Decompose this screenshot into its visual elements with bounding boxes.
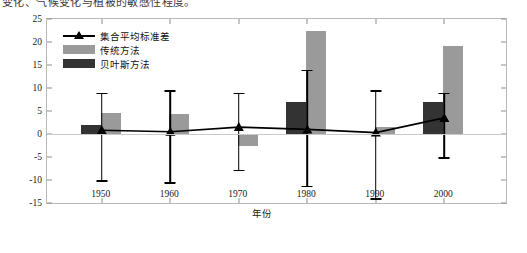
error-bar-cap xyxy=(302,186,313,188)
swatch-dark-gray-icon xyxy=(63,59,95,68)
x-tick-label: 1960 xyxy=(160,189,179,199)
y-tick-mark xyxy=(47,65,52,66)
y-tick-mark xyxy=(47,180,52,181)
y-tick-label: -15 xyxy=(29,198,42,208)
error-bar-cap xyxy=(439,93,450,95)
y-tick-mark xyxy=(501,111,506,112)
x-tick-mark xyxy=(101,19,102,24)
error-bar-cap xyxy=(439,157,450,159)
bar-traditional xyxy=(101,113,121,134)
chart-figure: 格陆地NEP (TgC/a) 年份 2520151050-5-10-15 集合平… xyxy=(0,0,527,253)
y-tick-mark xyxy=(47,157,52,158)
y-tick-mark xyxy=(501,203,506,204)
error-bar-whisker xyxy=(238,93,240,170)
legend-label: 传统方法 xyxy=(100,43,140,57)
error-bar-whisker xyxy=(375,90,377,198)
error-bar-cap xyxy=(370,90,381,92)
bar-traditional xyxy=(443,46,463,134)
bar-bayesian xyxy=(286,102,306,134)
bar-traditional xyxy=(238,134,258,146)
y-tick-mark xyxy=(501,88,506,89)
y-tick-mark xyxy=(501,65,506,66)
y-tick-mark xyxy=(47,42,52,43)
x-tick-label: 1950 xyxy=(91,189,110,199)
x-tick-mark xyxy=(375,19,376,24)
y-tick-mark xyxy=(47,19,52,20)
y-tick-label: -10 xyxy=(29,175,42,185)
error-bar-whisker xyxy=(170,90,172,182)
x-tick-mark xyxy=(444,19,445,24)
y-tick-label: 5 xyxy=(37,106,42,116)
legend-item-bayesian: 贝叶斯方法 xyxy=(63,57,170,70)
y-tick-label: 15 xyxy=(33,60,43,70)
error-bar-whisker xyxy=(101,93,103,180)
line-triangle-icon xyxy=(63,29,95,42)
x-tick-label: 1990 xyxy=(365,189,384,199)
error-bar-cap xyxy=(96,180,107,182)
error-bar-cap xyxy=(165,90,176,92)
bar-bayesian xyxy=(423,102,443,134)
y-tick-mark xyxy=(47,88,52,89)
x-tick-mark xyxy=(170,19,171,24)
y-tick-mark xyxy=(501,42,506,43)
x-tick-label: 1980 xyxy=(297,189,316,199)
x-tick-mark xyxy=(238,19,239,24)
bar-traditional xyxy=(306,31,326,135)
y-tick-mark xyxy=(501,19,506,20)
x-axis-title: 年份 xyxy=(252,206,272,220)
y-tick-label: 25 xyxy=(33,14,43,24)
error-bar-cap xyxy=(165,182,176,184)
x-tick-label: 2000 xyxy=(434,189,453,199)
y-tick-mark xyxy=(47,203,52,204)
bar-bayesian xyxy=(81,125,101,134)
error-bar-whisker xyxy=(444,93,446,157)
legend-label: 贝叶斯方法 xyxy=(100,57,150,71)
error-bar-cap xyxy=(233,93,244,95)
y-tick-mark xyxy=(47,111,52,112)
zero-baseline xyxy=(47,134,506,135)
y-tick-label: 0 xyxy=(37,129,42,139)
y-tick-label: -5 xyxy=(34,152,42,162)
y-tick-mark xyxy=(501,157,506,158)
swatch-light-gray-icon xyxy=(63,45,95,54)
plot-area: 2520151050-5-10-15 集合平均标准差 传统方法 贝叶斯方法 xyxy=(46,18,507,204)
legend-label: 集合平均标准差 xyxy=(100,29,170,43)
x-tick-label: 1970 xyxy=(228,189,247,199)
y-tick-label: 20 xyxy=(33,37,43,47)
legend-item-traditional: 传统方法 xyxy=(63,43,170,56)
bar-traditional xyxy=(169,114,189,134)
error-bar-cap xyxy=(302,70,313,72)
y-tick-mark xyxy=(501,180,506,181)
x-tick-mark xyxy=(307,19,308,24)
bar-traditional xyxy=(375,127,395,134)
y-tick-label: 10 xyxy=(33,83,43,93)
error-bar-cap xyxy=(96,93,107,95)
error-bar-cap xyxy=(233,170,244,172)
error-bar-whisker xyxy=(307,70,309,186)
legend-item-ensemble-std: 集合平均标准差 xyxy=(63,29,170,42)
chart-legend: 集合平均标准差 传统方法 贝叶斯方法 xyxy=(59,27,174,73)
